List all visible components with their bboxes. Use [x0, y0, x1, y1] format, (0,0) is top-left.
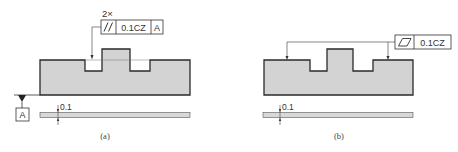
arrow-down-icon	[279, 109, 281, 112]
multiplier-label: 2×	[102, 8, 113, 19]
datum-ref-a: A	[154, 23, 160, 33]
caption-a: (a)	[100, 131, 110, 141]
leader-arrow-a	[91, 55, 94, 60]
caption-b: (b)	[334, 131, 344, 141]
arrow-down-icon	[57, 109, 59, 112]
datum-label-a: A	[19, 110, 25, 120]
arrow-up-icon	[57, 118, 59, 121]
zone-label-b: 0.1	[282, 102, 294, 112]
part-b-body	[264, 49, 413, 95]
datum-triangle-icon	[18, 95, 26, 102]
tolerance-zone-b	[263, 113, 413, 118]
panel-a: 0.1CZ A 2× A 0.1 (a)	[14, 8, 190, 141]
feature-control-frame-b: 0.1CZ	[395, 35, 451, 49]
part-a-body	[40, 49, 190, 95]
arrow-up-icon	[279, 118, 281, 121]
panel-b: 0.1CZ 0.1 (b)	[263, 35, 451, 141]
zone-label-a: 0.1	[60, 102, 72, 112]
tolerance-value-b: 0.1CZ	[420, 38, 445, 48]
leader-line-a	[92, 27, 101, 56]
tolerance-zone-a	[40, 113, 190, 118]
tolerance-value-a: 0.1CZ	[121, 23, 146, 33]
feature-control-frame-a: 0.1CZ A	[101, 20, 163, 34]
drawing-canvas: 0.1CZ A 2× A 0.1 (a) 0.1CZ	[0, 0, 458, 152]
